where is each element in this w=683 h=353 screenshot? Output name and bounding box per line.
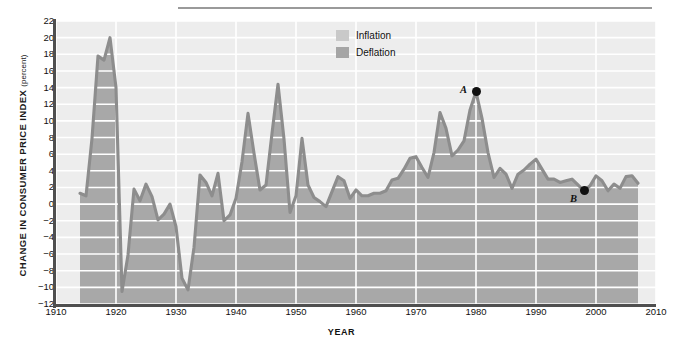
y-tick-label: −10 xyxy=(12,282,54,292)
x-tick-label: 1990 xyxy=(506,307,566,317)
annotation-point-b xyxy=(580,186,589,195)
legend-label: Deflation xyxy=(356,47,395,58)
legend-label: Inflation xyxy=(356,30,391,41)
x-tick-label: 2000 xyxy=(566,307,626,317)
y-tick-label: 0 xyxy=(12,199,54,209)
y-tick-label: −8 xyxy=(12,266,54,276)
annotation-point-a xyxy=(472,87,481,96)
x-tick-label: 1940 xyxy=(206,307,266,317)
x-tick-label: 1950 xyxy=(266,307,326,317)
y-tick-label: 16 xyxy=(12,66,54,76)
x-tick-label: 1920 xyxy=(86,307,146,317)
legend-deflation: Deflation xyxy=(336,45,395,60)
y-tick-label: 10 xyxy=(12,116,54,126)
x-tick-label: 1970 xyxy=(386,307,446,317)
chart-legend: InflationDeflation xyxy=(336,28,395,62)
x-axis-title: YEAR xyxy=(0,327,683,337)
legend-inflation: Inflation xyxy=(336,28,395,43)
x-axis-tick-labels: 1910192019301940195019601970198019902000… xyxy=(0,307,683,323)
y-tick-label: 20 xyxy=(12,33,54,43)
x-tick-label: 1960 xyxy=(326,307,386,317)
plot-area xyxy=(56,21,656,304)
annotation-point-a-label: A xyxy=(460,84,467,95)
x-tick-label: 1910 xyxy=(26,307,86,317)
y-tick-label: 12 xyxy=(12,99,54,109)
chart-svg xyxy=(56,21,656,304)
y-tick-label: 8 xyxy=(12,133,54,143)
x-tick-label: 1980 xyxy=(446,307,506,317)
x-tick-label: 2010 xyxy=(626,307,683,317)
y-axis-tick-labels: 2220181614121086420−2−4−6−8−10−12 xyxy=(10,0,54,353)
y-tick-label: −6 xyxy=(12,249,54,259)
y-tick-label: 2 xyxy=(12,182,54,192)
y-tick-label: 14 xyxy=(12,83,54,93)
figure-container: CHANGE IN CONSUMER PRICE INDEX (percent)… xyxy=(0,0,683,353)
y-tick-label: 4 xyxy=(12,166,54,176)
figure-top-rule xyxy=(178,7,652,9)
legend-swatch xyxy=(336,47,349,58)
x-tick-label: 1930 xyxy=(146,307,206,317)
annotation-point-b-label: B xyxy=(570,193,577,204)
y-tick-label: 6 xyxy=(12,149,54,159)
legend-swatch xyxy=(336,30,349,41)
y-tick-label: 22 xyxy=(12,16,54,26)
y-tick-label: −4 xyxy=(12,232,54,242)
y-tick-label: 18 xyxy=(12,49,54,59)
y-axis-line xyxy=(53,19,56,308)
y-tick-label: −2 xyxy=(12,216,54,226)
